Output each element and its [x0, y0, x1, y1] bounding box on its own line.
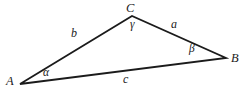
vertex-label-a: A [6, 75, 14, 88]
side-label-b: b [71, 27, 77, 39]
vertex-label-b: B [231, 52, 239, 65]
angle-label-alpha: α [43, 67, 49, 79]
vertex-label-c: C [126, 2, 134, 15]
angle-label-gamma: γ [130, 19, 135, 31]
side-label-a: a [171, 18, 177, 30]
side-label-c: c [123, 73, 128, 85]
angle-label-beta: β [189, 43, 195, 55]
triangle-figure: A B C a b c α β γ [0, 0, 247, 91]
